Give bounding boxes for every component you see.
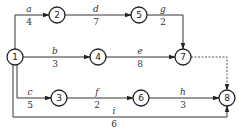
activity-b-duration: 3: [52, 59, 58, 69]
node-6-label: 6: [138, 93, 144, 103]
node-5-label: 5: [136, 10, 142, 20]
activity-g-duration: 2: [160, 17, 166, 27]
arrow-i: [13, 65, 227, 117]
activity-c-duration: 5: [27, 100, 33, 110]
node-8-label: 8: [224, 93, 230, 103]
node-7: 7: [175, 49, 191, 65]
node-2-label: 2: [54, 10, 60, 20]
activity-a-duration: 4: [26, 17, 32, 27]
network-diagram: a 4 b 3 c 5 d 7 e 8 f 2 g 2 h 3 i 6 1 2 …: [0, 0, 239, 129]
activity-c-name: c: [27, 87, 32, 97]
activity-e-name: e: [137, 46, 142, 56]
node-6: 6: [133, 90, 149, 106]
node-5: 5: [131, 7, 147, 23]
node-4: 4: [90, 49, 106, 65]
node-7-label: 7: [180, 52, 186, 62]
arrow-a: [15, 15, 49, 49]
node-4-label: 4: [95, 52, 101, 62]
activity-i-name: i: [113, 106, 116, 116]
node-2: 2: [49, 7, 65, 23]
activity-b-name: b: [52, 46, 58, 56]
node-1: 1: [7, 49, 23, 65]
node-1-label: 1: [12, 52, 18, 62]
node-3: 3: [51, 90, 67, 106]
activity-h-name: h: [180, 87, 186, 97]
arrow-c: [17, 65, 51, 98]
activity-d-duration: 7: [93, 17, 99, 27]
activity-d-name: d: [93, 4, 99, 14]
activity-i-duration: 6: [111, 119, 117, 129]
node-3-label: 3: [56, 93, 62, 103]
activity-g-name: g: [160, 4, 166, 14]
activity-f-duration: 2: [94, 100, 100, 110]
activity-h-duration: 3: [180, 100, 186, 110]
activity-e-duration: 8: [137, 59, 143, 69]
arrow-dummy-7-8: [191, 57, 227, 90]
node-8: 8: [219, 90, 235, 106]
activity-a-name: a: [26, 4, 31, 14]
activity-f-name: f: [94, 87, 100, 97]
